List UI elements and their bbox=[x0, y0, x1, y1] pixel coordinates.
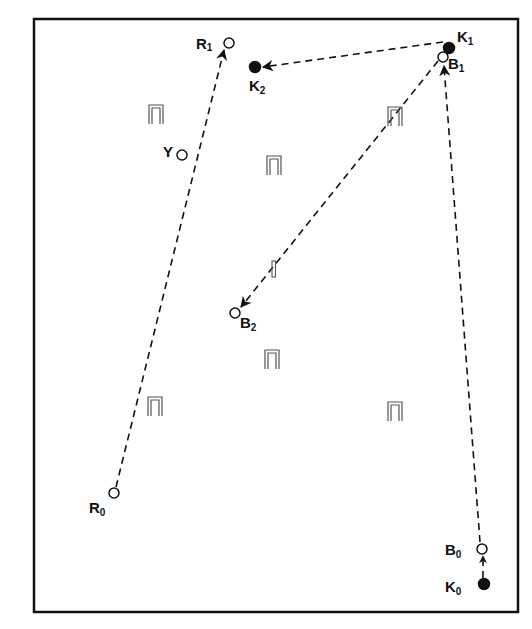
ball-labels: R1 K2 K1 B1 Y B2 R0 B0 K0 bbox=[89, 28, 474, 597]
ball-b1 bbox=[438, 52, 448, 62]
hoop-icon bbox=[267, 156, 281, 175]
hoop-icon bbox=[148, 397, 162, 416]
path-b0-to-b1 bbox=[444, 66, 480, 542]
balls bbox=[109, 38, 490, 590]
path-r0-to-r1 bbox=[116, 50, 224, 487]
label-r0: R0 bbox=[89, 499, 106, 518]
label-k0: K0 bbox=[445, 578, 462, 597]
ball-y bbox=[177, 150, 187, 160]
hoop-icon bbox=[265, 350, 279, 369]
label-b0: B0 bbox=[445, 541, 462, 560]
ball-r1 bbox=[224, 38, 234, 48]
hoop-icon bbox=[388, 402, 402, 421]
ball-k0 bbox=[479, 579, 490, 590]
label-k1: K1 bbox=[457, 28, 474, 47]
ball-r0 bbox=[109, 488, 119, 498]
ball-b0 bbox=[477, 544, 487, 554]
ball-k2 bbox=[250, 62, 261, 73]
croquet-diagram: R1 K2 K1 B1 Y B2 R0 B0 K0 bbox=[0, 0, 532, 629]
label-k2: K2 bbox=[249, 77, 266, 96]
path-k1-to-k2 bbox=[263, 42, 443, 67]
center-peg-icon bbox=[272, 261, 276, 277]
court-boundary bbox=[34, 19, 518, 612]
hoop-icon bbox=[149, 105, 163, 124]
ball-b2 bbox=[230, 308, 240, 318]
path-b1-to-b2 bbox=[241, 61, 438, 307]
shot-paths bbox=[116, 42, 483, 578]
label-b2: B2 bbox=[240, 314, 257, 333]
label-r1: R1 bbox=[196, 35, 213, 53]
label-y: Y bbox=[163, 143, 173, 160]
label-b1: B1 bbox=[448, 55, 465, 74]
